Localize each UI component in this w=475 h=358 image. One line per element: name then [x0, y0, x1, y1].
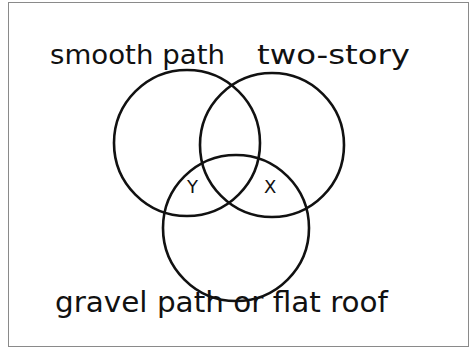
set-label-smooth-path: smooth path — [50, 39, 225, 70]
region-label-x: X — [264, 176, 276, 197]
venn-diagram: smooth path two-story gravel path or fla… — [0, 0, 475, 358]
set-label-gravel-or-flat: gravel path or flat roof — [55, 285, 389, 319]
circle-gravel-or-flat — [163, 155, 309, 301]
region-label-y: Y — [186, 176, 199, 197]
set-label-two-story: two-story — [257, 39, 410, 70]
